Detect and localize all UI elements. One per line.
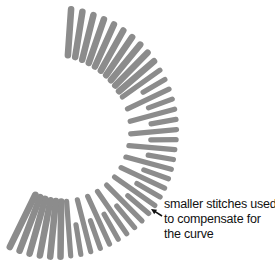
short-stitch	[151, 119, 176, 124]
short-stitch	[76, 225, 81, 254]
annotation-line-1: smaller stitches used	[164, 197, 275, 212]
stitch	[129, 146, 175, 150]
annotation-line-2: to compensate for	[164, 212, 275, 227]
annotation-arrow	[151, 209, 162, 216]
stitch	[61, 202, 62, 257]
stitch	[67, 201, 71, 256]
annotation-label: smaller stitches used to compensate for …	[164, 197, 275, 242]
annotation-line-3: the curve	[164, 227, 275, 242]
stitch-band	[10, 9, 177, 256]
stitch	[68, 9, 71, 55]
short-stitch	[149, 99, 173, 108]
short-stitch	[148, 155, 173, 159]
stitch	[131, 130, 177, 134]
